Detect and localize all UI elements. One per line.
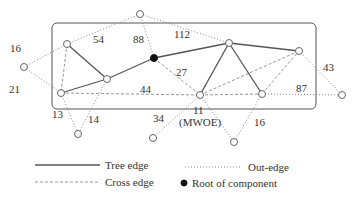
cross-edge xyxy=(61,44,67,93)
legend-root-icon xyxy=(181,180,187,186)
tree-edge xyxy=(61,79,107,93)
graph-diagram: 165488112212744874313143411(MWOE)16 Tree… xyxy=(0,0,363,201)
graph-node xyxy=(339,92,346,99)
graph-node xyxy=(150,135,157,142)
legend-cross-edge-label: Cross edge xyxy=(105,176,154,188)
cross-edge xyxy=(200,94,262,95)
root-node-icon xyxy=(151,55,158,62)
out-edge xyxy=(61,93,78,134)
graph-node xyxy=(226,40,233,47)
edge-weight-label: 112 xyxy=(174,28,190,40)
tree-edge xyxy=(229,43,299,51)
edge-weight-label: 34 xyxy=(153,112,165,124)
tree-edge xyxy=(67,44,107,79)
tree-edge xyxy=(200,43,229,95)
graph-node xyxy=(21,64,28,71)
edge-weight-label: 13 xyxy=(52,108,64,120)
graph-node xyxy=(231,139,238,146)
out-edge xyxy=(78,79,107,134)
edge-weight-label: 27 xyxy=(176,66,188,78)
edge-weight-label: 11 xyxy=(193,104,204,116)
legend-tree-edge-label: Tree edge xyxy=(105,159,148,171)
legend: Tree edge Cross edge Out-edge Root of co… xyxy=(35,159,289,189)
cross-edge xyxy=(262,51,299,94)
edge-weight-label: 43 xyxy=(323,61,335,73)
edge-weight-label: 44 xyxy=(140,83,152,95)
edge-weight-label: 88 xyxy=(133,33,145,45)
edge-weight-label: 21 xyxy=(9,83,20,95)
edge-weight-label: 16 xyxy=(10,42,22,54)
graph-node xyxy=(296,48,303,55)
edge-weight-label: (MWOE) xyxy=(179,116,221,129)
out-edge xyxy=(24,67,61,93)
tree-edge xyxy=(154,43,229,58)
graph-node xyxy=(64,41,71,48)
graph-node xyxy=(104,76,111,83)
out-edge xyxy=(262,94,342,95)
legend-root-label: Root of component xyxy=(192,177,277,189)
tree-edge xyxy=(107,58,154,79)
edge-weight-labels: 165488112212744874313143411(MWOE)16 xyxy=(9,28,335,129)
edge-weight-label: 87 xyxy=(296,82,308,94)
graph-node xyxy=(58,90,65,97)
cross-edge xyxy=(61,93,200,95)
graph-node xyxy=(197,92,204,99)
cross-edge xyxy=(200,51,299,95)
edge-weight-label: 54 xyxy=(93,33,105,45)
edge-weight-label: 16 xyxy=(254,116,266,128)
legend-out-edge-label: Out-edge xyxy=(248,161,289,173)
tree-edge xyxy=(229,43,262,94)
out-edge xyxy=(24,44,67,67)
graph-node xyxy=(259,91,266,98)
graph-node xyxy=(75,131,82,138)
graph-node xyxy=(137,11,144,18)
edge-weight-label: 14 xyxy=(88,113,100,125)
